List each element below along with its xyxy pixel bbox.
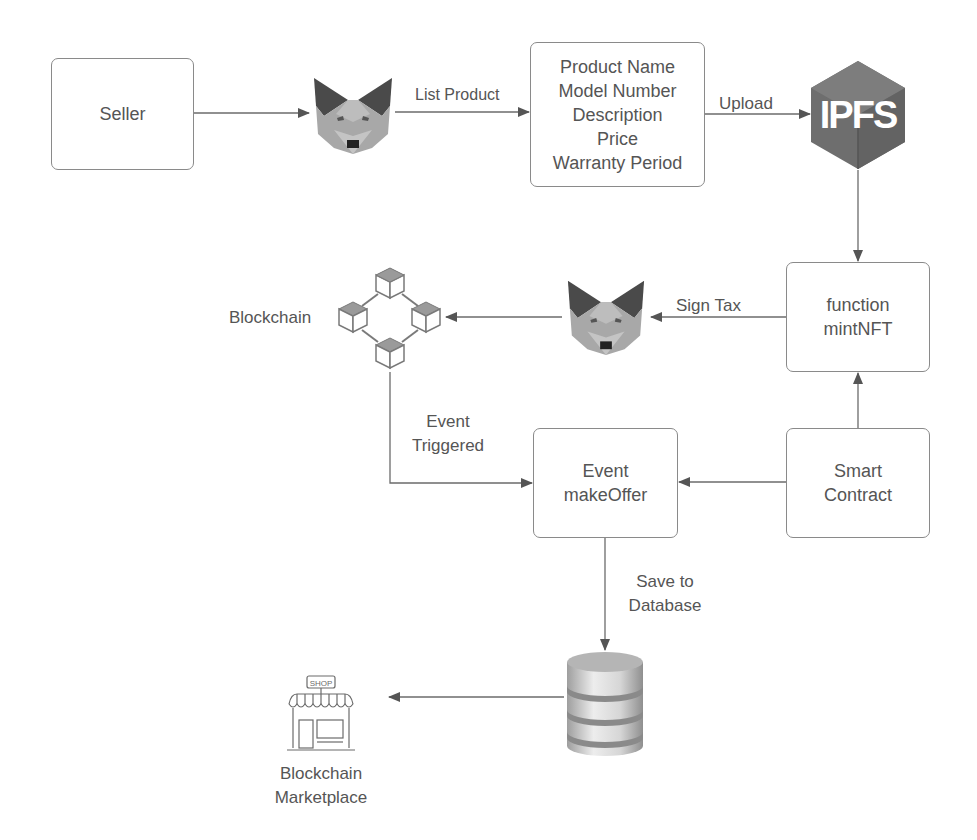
product-field-warranty: Warranty Period: [553, 151, 682, 175]
product-info-node: Product Name Model Number Description Pr…: [530, 42, 705, 187]
edge-label-save-to-database: Save to Database: [615, 570, 715, 618]
make-offer-node: Event makeOffer: [533, 428, 678, 538]
cube-bottom: [376, 338, 404, 368]
smart-contract-line-1: Smart: [834, 459, 882, 483]
product-field-price: Price: [597, 127, 638, 151]
seller-label: Seller: [99, 102, 145, 126]
edge-label-sign-tax: Sign Tax: [676, 294, 741, 318]
blockchain-label: Blockchain: [229, 306, 311, 330]
database-icon: [565, 650, 645, 758]
make-offer-line-2: makeOffer: [564, 483, 648, 507]
smart-contract-node: Smart Contract: [786, 428, 930, 538]
ipfs-hexagon-icon: IPFS: [808, 59, 908, 171]
metamask-fox-icon: [310, 70, 396, 156]
mint-nft-node: function mintNFT: [786, 262, 930, 372]
metamask-fox-icon: [562, 273, 650, 357]
marketplace-line-2: Marketplace: [256, 786, 386, 810]
event-triggered-line-1: Event: [398, 410, 498, 434]
marketplace-label: Blockchain Marketplace: [256, 762, 386, 810]
blockchain-cubes-icon: [336, 264, 444, 372]
edge-label-event-triggered: Event Triggered: [398, 410, 498, 458]
cube-left: [339, 302, 367, 332]
mint-nft-line-1: function: [826, 293, 889, 317]
product-field-name: Product Name: [560, 55, 675, 79]
shop-sign-text: SHOP: [310, 679, 333, 688]
event-triggered-line-2: Triggered: [398, 434, 498, 458]
mint-nft-line-2: mintNFT: [824, 317, 893, 341]
product-field-model: Model Number: [558, 79, 676, 103]
flow-diagram: Seller List Product Product Name Model N…: [0, 0, 977, 840]
cube-top: [376, 268, 404, 298]
make-offer-line-1: Event: [582, 459, 628, 483]
save-to-database-line-1: Save to: [615, 570, 715, 594]
shop-icon: SHOP: [283, 674, 359, 754]
seller-node: Seller: [51, 58, 194, 170]
ipfs-label: IPFS: [808, 93, 908, 137]
product-field-description: Description: [572, 103, 662, 127]
smart-contract-line-2: Contract: [824, 483, 892, 507]
edge-label-upload: Upload: [719, 92, 773, 116]
save-to-database-line-2: Database: [615, 594, 715, 618]
cube-right: [412, 302, 440, 332]
marketplace-line-1: Blockchain: [256, 762, 386, 786]
edge-label-list-product: List Product: [415, 83, 499, 107]
